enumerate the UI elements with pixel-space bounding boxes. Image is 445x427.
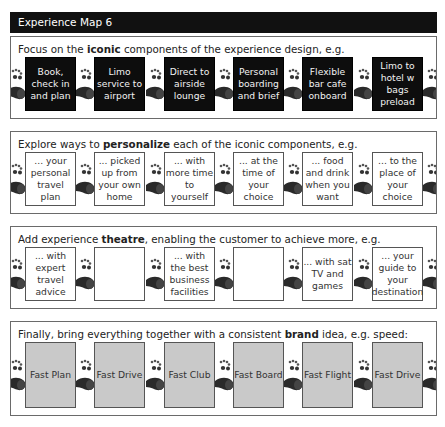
footprints-icon [423,256,437,296]
section-brand: Finally, bring everything together with … [10,321,437,416]
section-personalize: Explore ways to personalize each of the … [10,131,437,214]
section-title: Add experience theatre, enabling the cus… [18,233,381,245]
footprints-icon [423,357,437,397]
footprints-icon [146,66,166,106]
footprints-icon [284,66,304,106]
keyword-theatre: theatre [102,233,145,245]
step-box: Fast Board [233,342,284,408]
step-box [94,247,145,301]
section-theatre: Add experience theatre, enabling the cus… [10,226,437,309]
footprints-icon [215,66,235,106]
section-title: Focus on the iconic components of the ex… [18,43,345,55]
step-box: Fast Drive [372,342,423,408]
step-box: ... your guide to your destination [372,247,423,301]
footprints-icon [284,357,304,397]
step-box: Limo to hotel w bags preload [372,57,423,111]
footprints-icon [76,161,96,201]
step-box: Personal boarding and brief [233,57,284,111]
keyword-personalize: personalize [103,138,170,150]
footprints-icon [354,357,374,397]
step-box: Book, check in and plan [25,57,76,111]
footprints-icon [76,256,96,296]
section-title: Explore ways to personalize each of the … [18,138,357,150]
step-box: ... your personal travel plan [25,152,76,206]
page-header: Experience Map 6 [10,12,437,33]
step-box: ... to the place of your choice [372,152,423,206]
footprints-icon [146,161,166,201]
footprints-icon [284,161,304,201]
step-box [233,247,284,301]
footprints-icon [76,357,96,397]
footprints-icon [284,256,304,296]
footprints-icon [423,66,437,106]
step-box: Direct to airside lounge [164,57,215,111]
page-title: Experience Map 6 [18,16,112,28]
step-box: ... with expert travel advice [25,247,76,301]
step-box: ... food and drink when you want [302,152,353,206]
step-box: Fast Drive [94,342,145,408]
footprints-icon [423,161,437,201]
step-box: Fast Club [164,342,215,408]
footprints-icon [215,161,235,201]
step-box: Fast Flight [302,342,353,408]
section-title: Finally, bring everything together with … [18,328,408,340]
step-box: Limo service to airport [94,57,145,111]
section-iconic: Focus on the iconic components of the ex… [10,36,437,119]
footprints-icon [215,256,235,296]
footprints-icon [354,161,374,201]
footprints-icon [354,66,374,106]
footprints-icon [76,66,96,106]
step-box: Flexible bar cafe onboard [302,57,353,111]
keyword-brand: brand [285,328,319,340]
keyword-iconic: iconic [87,43,121,55]
step-box: ... with the best business facilities [164,247,215,301]
step-box: ... picked up from your own home [94,152,145,206]
step-box: ... with sat TV and games [302,247,353,301]
footprints-icon [146,256,166,296]
footprints-icon [215,357,235,397]
footprints-icon [146,357,166,397]
step-box: Fast Plan [25,342,76,408]
step-box: ... with more time to yourself [164,152,215,206]
step-box: ... at the time of your choice [233,152,284,206]
